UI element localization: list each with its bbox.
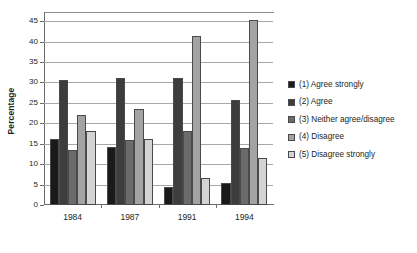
- legend-item-label: (5) Disagree strongly: [299, 151, 375, 159]
- bar: [68, 150, 77, 205]
- bar-group-1994: [221, 13, 267, 205]
- bar-group-1987: [107, 13, 153, 205]
- bar: [50, 139, 59, 205]
- x-axis-tick-label-1987: 1987: [100, 212, 160, 222]
- bar: [201, 178, 210, 205]
- legend-item-label: (3) Neither agree/disagree: [299, 116, 395, 124]
- x-axis-tick: [101, 204, 102, 208]
- bar: [86, 131, 95, 205]
- legend-swatch-icon: [288, 99, 295, 106]
- y-axis-tick-label: 45: [12, 16, 38, 25]
- bar: [192, 36, 201, 205]
- bar: [183, 131, 192, 205]
- legend: (1) Agree strongly(2) Agree(3) Neither a…: [288, 76, 417, 164]
- x-axis-tick-label-1984: 1984: [43, 212, 103, 222]
- x-axis-tick-label-1991: 1991: [157, 212, 217, 222]
- y-axis-tick: [40, 205, 44, 206]
- legend-swatch-icon: [288, 151, 295, 158]
- bar: [164, 187, 173, 205]
- x-axis-tick-label-1994: 1994: [214, 212, 274, 222]
- bar: [116, 78, 125, 205]
- bar: [221, 183, 230, 205]
- bar: [107, 147, 116, 205]
- legend-swatch-icon: [288, 134, 295, 141]
- x-axis-tick: [159, 204, 160, 208]
- legend-swatch-icon: [288, 81, 295, 88]
- y-axis-tick-label: 30: [12, 77, 38, 86]
- y-axis-tick-label: 25: [12, 98, 38, 107]
- plot-area: [44, 13, 273, 205]
- bar: [240, 148, 249, 205]
- bar: [134, 109, 143, 205]
- bar-group-1991: [164, 13, 210, 205]
- y-axis-tick-label: 35: [12, 57, 38, 66]
- bar-group-1984: [50, 13, 96, 205]
- legend-item-3[interactable]: (3) Neither agree/disagree: [288, 111, 417, 129]
- bar: [144, 139, 153, 205]
- legend-item-label: (1) Agree strongly: [299, 81, 364, 89]
- bar: [173, 78, 182, 205]
- legend-item-label: (2) Agree: [299, 98, 333, 106]
- y-axis-tick-label: 40: [12, 37, 38, 46]
- bar: [77, 115, 86, 205]
- bar: [249, 20, 258, 205]
- bar: [231, 100, 240, 205]
- legend-item-4[interactable]: (4) Disagree: [288, 129, 417, 147]
- legend-item-label: (4) Disagree: [299, 133, 344, 141]
- y-axis-tick-label: 20: [12, 118, 38, 127]
- bar: [59, 80, 68, 205]
- y-axis-tick-label: 5: [12, 180, 38, 189]
- bar: [125, 140, 134, 205]
- bar: [258, 158, 267, 205]
- legend-item-1[interactable]: (1) Agree strongly: [288, 76, 417, 94]
- x-axis-tick: [216, 204, 217, 208]
- y-axis-tick-label: 0: [12, 200, 38, 209]
- legend-item-2[interactable]: (2) Agree: [288, 94, 417, 112]
- y-axis-tick-label: 15: [12, 139, 38, 148]
- legend-swatch-icon: [288, 116, 295, 123]
- y-axis-tick-label: 10: [12, 159, 38, 168]
- legend-item-5[interactable]: (5) Disagree strongly: [288, 146, 417, 164]
- bar-chart: Percentage 051015202530354045 1984198719…: [0, 0, 417, 253]
